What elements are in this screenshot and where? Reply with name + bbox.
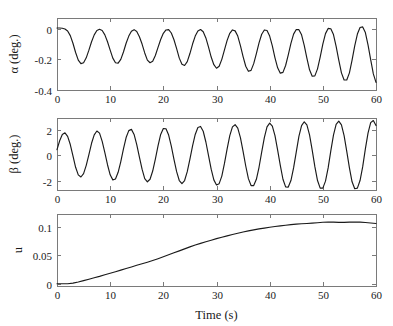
x-tick-label: 20 [158,193,170,205]
axes-frame [58,215,377,287]
data-series-alpha [57,27,376,82]
x-tick-label: 10 [105,289,117,301]
x-tick-label: 40 [265,289,277,301]
x-tick-label: 10 [105,93,117,105]
x-tick-label: 20 [158,289,170,301]
x-tick-label: 10 [105,193,117,205]
x-tick-label: 50 [318,193,330,205]
figure-panel: 01020304050600-0.2-0.4α (deg.) 010203040… [0,0,393,326]
x-tick-label: 40 [265,93,277,105]
y-axis-label: u [11,246,25,253]
y-tick-label: -0.2 [35,54,52,66]
x-tick-label: 30 [212,93,224,105]
data-series-beta [57,121,376,189]
y-tick-label: 2 [47,125,53,137]
axes-frame [58,19,377,91]
x-tick-label: 20 [158,93,170,105]
x-tick-label: 0 [55,193,61,205]
x-tick-label: 60 [371,289,383,301]
x-tick-label: 60 [371,93,383,105]
subplot-u: 010203040506000.050.1uTime (s) [0,208,393,326]
beta-plot-svg: 010203040506020-2β (deg.) [0,108,393,208]
y-tick-label: -0.4 [35,85,53,97]
u-plot-svg: 010203040506000.050.1uTime (s) [0,208,393,326]
x-tick-label: 0 [55,93,61,105]
y-tick-label: 0.05 [33,250,53,262]
x-tick-label: 30 [212,289,224,301]
x-tick-label: 60 [371,193,383,205]
y-tick-label: 0 [47,24,53,36]
subplot-alpha: 01020304050600-0.2-0.4α (deg.) [0,8,393,108]
y-axis-label: α (deg.) [7,34,21,73]
x-tick-label: 50 [318,93,330,105]
y-axis-label: β (deg.) [7,135,21,174]
y-tick-label: 0 [47,279,53,291]
x-tick-label: 50 [318,289,330,301]
subplot-beta: 010203040506020-2β (deg.) [0,108,393,208]
y-tick-label: 0.1 [38,222,52,234]
x-tick-label: 30 [212,193,224,205]
alpha-plot-svg: 01020304050600-0.2-0.4α (deg.) [0,8,393,108]
y-tick-label: -2 [43,176,52,188]
x-axis-label: Time (s) [195,308,237,322]
y-tick-label: 0 [47,150,53,162]
x-tick-label: 0 [55,289,61,301]
x-tick-label: 40 [265,193,277,205]
data-series-u [57,222,376,284]
